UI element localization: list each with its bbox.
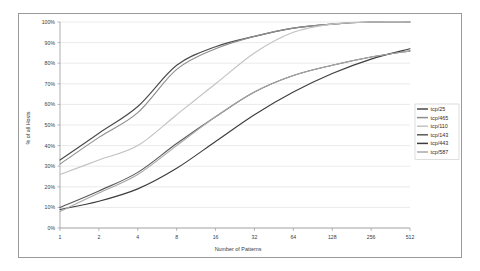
series-line — [60, 22, 410, 175]
y-tick-label: 100% — [42, 19, 56, 25]
axes-group — [58, 22, 411, 231]
x-tick-label: 256 — [367, 234, 376, 240]
series-group — [60, 22, 410, 212]
series-line — [60, 51, 410, 212]
x-tick-label: 16 — [213, 234, 219, 240]
x-tick-label: 512 — [406, 234, 415, 240]
x-tick-label: 4 — [136, 234, 139, 240]
legend-label: tcp/25 — [431, 106, 446, 112]
y-tick-label: 10% — [45, 204, 56, 210]
y-tick-label: 30% — [45, 163, 56, 169]
y-tick-label: 40% — [45, 143, 56, 149]
legend-label: tcp/110 — [431, 123, 448, 129]
legend-label: tcp/443 — [431, 140, 449, 146]
y-tick-label: 20% — [45, 184, 56, 190]
legend-label: tcp/587 — [431, 149, 449, 155]
x-tick-label: 1 — [59, 234, 62, 240]
y-tick-label: 60% — [45, 101, 56, 107]
y-tick-label: 50% — [45, 122, 56, 128]
y-tick-label: 70% — [45, 81, 56, 87]
x-axis-title: Number of Patterns — [215, 246, 262, 252]
line-chart: 0%10%20%30%40%50%60%70%80%90%100% 124816… — [0, 0, 480, 271]
chart-legend: tcp/25tcp/465tcp/110tcp/143tcp/443tcp/58… — [415, 104, 459, 160]
x-tick-label: 32 — [252, 234, 258, 240]
y-tick-label: 90% — [45, 40, 56, 46]
x-tick-label: 2 — [97, 234, 100, 240]
y-axis-title: % of all Hosts — [25, 111, 31, 144]
series-line — [60, 22, 410, 164]
y-tick-label: 0% — [48, 225, 56, 231]
y-tick-label: 80% — [45, 60, 56, 66]
legend-label: tcp/465 — [431, 115, 449, 121]
x-tick-labels: 1248163264128256512 — [59, 234, 415, 240]
legend-label: tcp/143 — [431, 132, 449, 138]
x-tick-label: 64 — [290, 234, 296, 240]
chart-figure: 0%10%20%30%40%50%60%70%80%90%100% 124816… — [0, 0, 480, 271]
x-tick-label: 128 — [328, 234, 337, 240]
x-tick-label: 8 — [175, 234, 178, 240]
y-tick-labels: 0%10%20%30%40%50%60%70%80%90%100% — [42, 19, 56, 231]
